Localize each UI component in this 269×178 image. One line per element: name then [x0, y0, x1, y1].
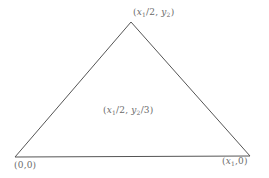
apex-vertex-label: (x1/2, y2) — [133, 8, 174, 17]
triangle-diagram: (x1/2, y2) (x1/2, y2/3) (0,0) (x1,0) — [0, 0, 269, 178]
triangle-shape — [0, 0, 269, 178]
origin-vertex-label: (0,0) — [14, 161, 36, 170]
right-vertex-label: (x1,0) — [222, 157, 248, 166]
centroid-label: (x1/2, y2/3) — [103, 106, 154, 115]
triangle-outline — [15, 22, 250, 157]
